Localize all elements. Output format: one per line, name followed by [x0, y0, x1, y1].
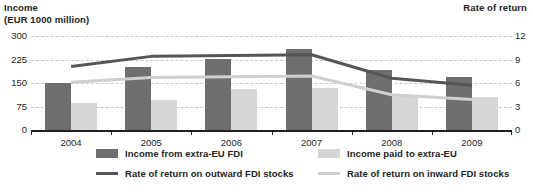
right-axis-title: Rate of return	[463, 2, 527, 14]
left-axis-tick-label: 0	[1, 125, 27, 135]
left-axis-tick-label: 225	[1, 55, 27, 65]
category-axis-tick	[511, 130, 512, 135]
legend-swatch-icon	[318, 149, 340, 158]
chart-container: Income (EUR 1000 million) Rate of return…	[0, 0, 533, 196]
category-axis-tick	[111, 130, 112, 135]
category-axis-tick	[272, 130, 273, 135]
left-axis-tick-label: 300	[1, 31, 27, 41]
right-axis-tick-label: 6	[515, 78, 533, 88]
legend-label: Income from extra-EU FDI	[125, 148, 243, 159]
left-axis-tick-labels: 075150225300	[0, 36, 27, 130]
legend-label: Income paid to extra-EU	[347, 148, 457, 159]
line-series-layer	[31, 36, 512, 130]
category-axis-tick	[432, 130, 433, 135]
category-axis-label: 2008	[352, 137, 432, 148]
category-axis-label: 2009	[432, 137, 512, 148]
legend-item-rate-of-return-outward: Rate of return on outward FDI stocks	[96, 168, 294, 179]
line-rate-of-return-outward	[71, 55, 472, 86]
left-axis-tick-label: 150	[1, 78, 27, 88]
legend-item-income-from-extra-eu-fdi: Income from extra-EU FDI	[96, 148, 243, 159]
category-axis-label: 2005	[111, 137, 191, 148]
category-axis-label: 2004	[31, 137, 111, 148]
right-axis-tick-label: 12	[515, 31, 533, 41]
legend-label: Rate of return on outward FDI stocks	[125, 168, 294, 179]
plot-area	[31, 36, 512, 130]
legend-item-rate-of-return-inward: Rate of return on inward FDI stocks	[318, 168, 509, 179]
legend-line-icon	[96, 172, 118, 175]
legend-item-income-paid-to-extra-eu: Income paid to extra-EU	[318, 148, 457, 159]
category-axis-tick	[352, 130, 353, 135]
left-axis-title: Income (EUR 1000 million)	[4, 2, 89, 25]
category-axis-label: 2006	[191, 137, 271, 148]
right-axis-tick-labels: 036912	[515, 36, 533, 130]
category-axis-tick	[191, 130, 192, 135]
right-axis-tick-label: 0	[515, 125, 533, 135]
chart-legend: Income from extra-EU FDI Income paid to …	[96, 148, 516, 190]
category-axis: 200420052006200720082009	[31, 130, 512, 150]
category-axis-label: 2007	[272, 137, 352, 148]
legend-line-icon	[318, 172, 340, 175]
right-axis-tick-label: 9	[515, 55, 533, 65]
legend-swatch-icon	[96, 149, 118, 158]
category-axis-tick	[31, 130, 32, 135]
left-axis-tick-label: 75	[1, 102, 27, 112]
legend-label: Rate of return on inward FDI stocks	[347, 168, 509, 179]
right-axis-tick-label: 3	[515, 102, 533, 112]
